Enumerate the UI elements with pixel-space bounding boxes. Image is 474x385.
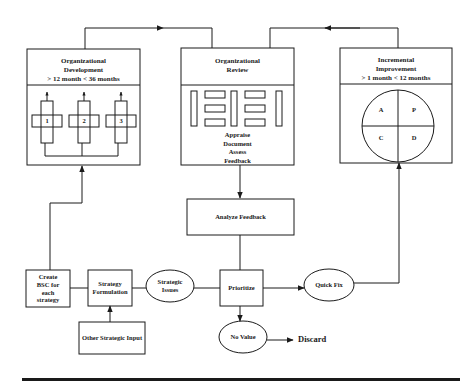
title-line2: Review xyxy=(181,66,294,75)
activity-feedback: Feedback xyxy=(181,157,294,166)
review-document-icons xyxy=(191,91,282,126)
line: Strategic xyxy=(146,278,194,286)
title-line1: Organizational xyxy=(27,57,140,66)
review-activities: Appraise Document Assess Feedback xyxy=(181,131,294,165)
arrow-quickfix-to-increment xyxy=(354,163,399,283)
activity-document: Document xyxy=(181,140,294,149)
line: Create xyxy=(26,273,70,281)
line: each xyxy=(26,289,70,297)
pdca-do: D xyxy=(409,134,419,142)
duration: > 1 month < 12 months xyxy=(340,74,452,83)
no-value-label: No Value xyxy=(219,333,267,341)
activity-assess: Assess xyxy=(181,148,294,157)
quick-fix-label: Quick Fix xyxy=(304,281,354,289)
title-line1: Organizational xyxy=(181,57,294,66)
prioritize-label: Prioritize xyxy=(220,284,263,292)
arrow-orgdev-to-review xyxy=(85,28,163,49)
pdca-plan: P xyxy=(409,106,419,114)
initiative-3-label: 3 xyxy=(115,117,127,125)
title-line2: Development xyxy=(27,66,140,75)
line: BSC for xyxy=(26,281,70,289)
activity-appraise: Appraise xyxy=(181,131,294,140)
pdca-check: C xyxy=(376,134,386,142)
strategy-formulation-label: Strategy Formulation xyxy=(88,280,132,296)
arrow-bsc-to-orgdev xyxy=(50,166,82,270)
title-line1: Incremental xyxy=(340,56,452,65)
line: Issues xyxy=(146,286,194,294)
pdca-act: A xyxy=(376,106,386,114)
org-review-title: Organizational Review xyxy=(181,57,294,75)
create-bsc-label: Create BSC for each strategy xyxy=(26,273,70,304)
pdca-circle xyxy=(362,90,434,162)
strategic-issues-label: Strategic Issues xyxy=(146,278,194,294)
title-line2: Improvement xyxy=(340,65,452,74)
bottom-rule xyxy=(22,378,460,381)
initiative-2-label: 2 xyxy=(78,117,90,125)
initiative-1-label: 1 xyxy=(41,117,53,125)
line: strategy xyxy=(26,296,70,304)
line: Formulation xyxy=(88,288,132,296)
other-strategic-input-label: Other Strategic Input xyxy=(79,334,145,342)
incremental-improvement-title: Incremental Improvement > 1 month < 12 m… xyxy=(340,56,452,83)
line: Strategy xyxy=(88,280,132,288)
discard-label: Discard xyxy=(298,335,338,343)
org-development-title: Organizational Development > 12 month < … xyxy=(27,57,140,84)
duration: > 12 month < 36 months xyxy=(27,75,140,84)
analyze-feedback-label: Analyze Feedback xyxy=(187,213,294,221)
